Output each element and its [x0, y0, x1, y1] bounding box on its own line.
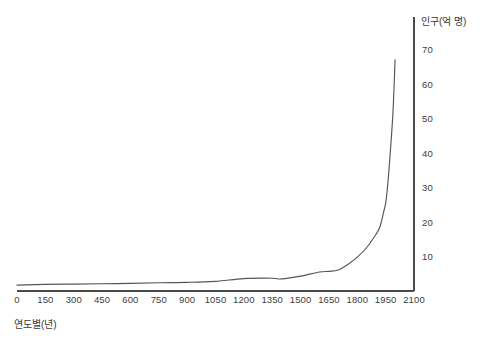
x-axis-title: 연도별(년) [14, 316, 57, 331]
x-tick-label: 1200 [233, 294, 255, 305]
y-axis-title: 인구(억 명) [421, 13, 466, 28]
y-tick-label: 50 [422, 113, 433, 124]
y-tick-label: 10 [422, 251, 433, 262]
x-tick-label: 1650 [318, 294, 340, 305]
x-tick-label: 1350 [261, 294, 283, 305]
population-growth-chart: 인구(억 명) 연도별(년) 0150300450600750900105012… [0, 0, 493, 345]
y-tick-label: 40 [422, 147, 433, 158]
x-tick-label: 450 [94, 294, 110, 305]
population-curve [17, 60, 395, 285]
x-tick-label: 2100 [403, 294, 425, 305]
x-tick-label: 1800 [347, 294, 369, 305]
x-tick-label: 1050 [205, 294, 227, 305]
x-tick-label: 600 [122, 294, 138, 305]
x-tick-label: 300 [66, 294, 82, 305]
y-tick-label: 20 [422, 216, 433, 227]
x-tick-label: 150 [37, 294, 53, 305]
y-tick-label: 70 [422, 44, 433, 55]
x-tick-label: 750 [151, 294, 167, 305]
x-tick-label: 0 [14, 294, 19, 305]
y-tick-label: 60 [422, 78, 433, 89]
x-tick-label: 1950 [375, 294, 397, 305]
x-tick-label: 1500 [290, 294, 312, 305]
y-tick-label: 30 [422, 182, 433, 193]
x-tick-label: 900 [179, 294, 195, 305]
